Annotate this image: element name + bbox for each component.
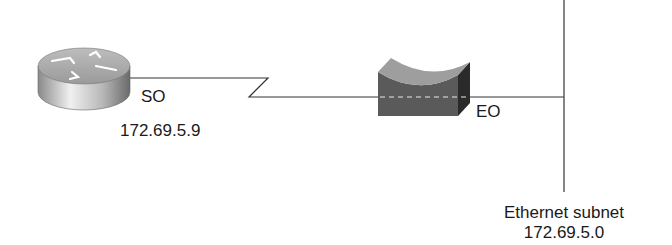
bridge-interface-label: EO	[476, 102, 501, 121]
router-ip-address: 172.69.5.9	[120, 121, 200, 140]
bridge-device-icon	[378, 58, 470, 116]
router-icon	[38, 48, 130, 110]
serial-link	[130, 78, 400, 97]
router-interface-label: SO	[141, 87, 166, 106]
ethernet-network-address: 172.69.5.0	[494, 223, 634, 242]
ethernet-subnet-label: Ethernet subnet	[494, 203, 634, 222]
